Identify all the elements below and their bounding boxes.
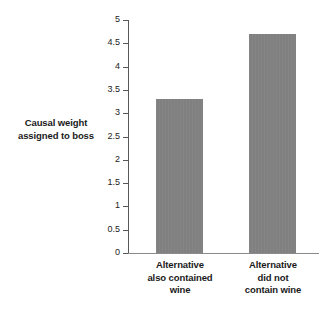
x-axis-category-label-line: Alternative — [220, 259, 326, 272]
y-axis-tick-label: 1 — [86, 201, 120, 210]
y-axis-tick — [123, 43, 128, 44]
y-axis-tick — [123, 67, 128, 68]
y-axis-tick-label: 5 — [86, 15, 120, 24]
y-axis-tick — [123, 137, 128, 138]
y-axis-line — [128, 20, 129, 253]
y-axis-title-line-1: Causal weight — [25, 117, 88, 128]
y-axis-tick — [123, 253, 128, 254]
bar-chart-figure: Causal weight assigned to boss 00.511.52… — [0, 0, 327, 310]
y-axis-tick — [123, 113, 128, 114]
plot-area: 00.511.522.533.544.55 — [128, 20, 313, 253]
x-axis-baseline — [127, 253, 319, 254]
y-axis-tick — [123, 230, 128, 231]
x-axis-category-label-1: Alternativedid notcontain wine — [220, 259, 326, 297]
y-axis-tick-label: 2.5 — [86, 132, 120, 141]
y-axis-tick — [123, 206, 128, 207]
y-axis-tick-label: 2 — [86, 155, 120, 164]
x-axis-category-label-line: also contained — [127, 272, 233, 285]
y-axis-tick-label: 1.5 — [86, 178, 120, 187]
y-axis-tick-label: 0.5 — [86, 225, 120, 234]
bar — [156, 99, 203, 253]
y-axis-tick-label: 4 — [86, 62, 120, 71]
y-axis-tick-label: 3 — [86, 108, 120, 117]
y-axis-tick — [123, 20, 128, 21]
x-axis-category-label-0: Alternativealso containedwine — [127, 259, 233, 297]
y-axis-tick — [123, 160, 128, 161]
x-axis-category-label-line: contain wine — [220, 284, 326, 297]
y-axis-tick — [123, 90, 128, 91]
y-axis-title-line-2: assigned to boss — [18, 130, 94, 141]
y-axis-tick-label: 0 — [86, 248, 120, 257]
x-axis-category-label-line: Alternative — [127, 259, 233, 272]
bar — [249, 34, 296, 253]
x-axis-category-label-line: wine — [127, 284, 233, 297]
x-axis-category-label-line: did not — [220, 272, 326, 285]
y-axis-tick-label: 4.5 — [86, 38, 120, 47]
y-axis-tick — [123, 183, 128, 184]
y-axis-tick-label: 3.5 — [86, 85, 120, 94]
